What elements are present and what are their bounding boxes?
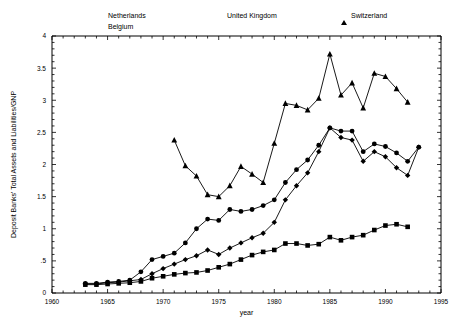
x-axis-tick-label: 1995 bbox=[434, 298, 449, 305]
square-marker-icon bbox=[194, 270, 199, 275]
diamond-marker-icon bbox=[216, 252, 221, 257]
x-axis-tick-label: 1985 bbox=[323, 298, 338, 305]
square-marker-icon bbox=[294, 241, 299, 246]
diamond-marker-icon bbox=[227, 245, 232, 250]
y-axis-tick-label: 2.5 bbox=[37, 129, 46, 136]
circle-marker-icon bbox=[416, 145, 421, 150]
circle-marker-icon bbox=[105, 280, 110, 285]
square-marker-icon bbox=[305, 243, 310, 248]
triangle-marker-icon bbox=[349, 80, 355, 86]
y-axis-tick-label: 3.5 bbox=[37, 65, 46, 72]
circle-marker-icon bbox=[116, 279, 121, 284]
series-united-kingdom bbox=[83, 125, 421, 285]
series-line bbox=[85, 128, 418, 284]
circle-marker-icon bbox=[83, 281, 88, 286]
y-axis-title: Deposit Banks' Total Assets and Liabilit… bbox=[10, 91, 18, 238]
triangle-marker-icon bbox=[249, 171, 255, 177]
y-axis-tick-label: 4 bbox=[42, 32, 46, 39]
series-line bbox=[85, 128, 418, 283]
square-marker-icon bbox=[216, 265, 221, 270]
x-axis-title: year bbox=[240, 309, 254, 317]
triangle-marker-icon bbox=[327, 51, 333, 57]
triangle-marker-icon bbox=[371, 70, 377, 76]
diamond-marker-icon bbox=[160, 266, 165, 271]
y-axis-tick-label: 0 bbox=[42, 289, 46, 296]
triangle-marker-icon bbox=[316, 95, 322, 101]
square-marker-icon bbox=[372, 228, 377, 233]
chart-svg: 0.511.522.533.54196019651970197519801985… bbox=[0, 0, 460, 327]
circle-marker-icon bbox=[327, 125, 332, 130]
diamond-marker-icon bbox=[172, 261, 177, 266]
circle-marker-icon bbox=[383, 144, 388, 149]
circle-marker-icon bbox=[250, 207, 255, 212]
plot-area: 0.511.522.533.54196019651970197519801985… bbox=[0, 0, 460, 327]
square-marker-icon bbox=[183, 271, 188, 276]
plot-frame bbox=[52, 36, 441, 293]
x-axis-tick-label: 1990 bbox=[378, 298, 393, 305]
circle-marker-icon bbox=[239, 209, 244, 214]
triangle-marker-icon bbox=[238, 163, 244, 169]
triangle-marker-icon bbox=[283, 100, 289, 106]
square-marker-icon bbox=[272, 248, 277, 253]
square-marker-icon bbox=[383, 223, 388, 228]
triangle-marker-icon bbox=[260, 179, 266, 185]
circle-marker-icon bbox=[394, 151, 399, 156]
circle-marker-icon bbox=[194, 226, 199, 231]
square-marker-icon bbox=[394, 222, 399, 227]
series-switzerland bbox=[171, 51, 410, 199]
circle-marker-icon bbox=[372, 142, 377, 147]
triangle-marker-icon bbox=[182, 163, 188, 169]
circle-marker-icon bbox=[339, 129, 344, 134]
circle-marker-icon bbox=[127, 278, 132, 283]
circle-marker-icon bbox=[161, 254, 166, 259]
circle-marker-icon bbox=[183, 240, 188, 245]
circle-marker-icon bbox=[272, 197, 277, 202]
circle-marker-icon bbox=[216, 218, 221, 223]
square-marker-icon bbox=[361, 233, 366, 238]
circle-marker-icon bbox=[261, 203, 266, 208]
square-marker-icon bbox=[350, 235, 355, 240]
x-axis-tick-label: 1980 bbox=[267, 298, 282, 305]
circle-marker-icon bbox=[227, 207, 232, 212]
x-axis-tick-label: 1965 bbox=[100, 298, 115, 305]
diamond-marker-icon bbox=[205, 247, 210, 252]
circle-marker-icon bbox=[94, 281, 99, 286]
circle-marker-icon bbox=[205, 217, 210, 222]
diamond-marker-icon bbox=[183, 257, 188, 262]
chart-root: Netherlands United Kingdom Switzerland B… bbox=[0, 0, 460, 327]
series-belgium bbox=[83, 125, 422, 287]
triangle-marker-icon bbox=[360, 105, 366, 111]
triangle-marker-icon bbox=[171, 137, 177, 143]
square-marker-icon bbox=[150, 276, 155, 281]
square-marker-icon bbox=[316, 242, 321, 247]
square-marker-icon bbox=[228, 262, 233, 267]
circle-marker-icon bbox=[316, 143, 321, 148]
circle-marker-icon bbox=[172, 251, 177, 256]
circle-marker-icon bbox=[139, 269, 144, 274]
series-line bbox=[85, 224, 407, 284]
y-axis-tick-label: 2 bbox=[42, 161, 46, 168]
circle-marker-icon bbox=[361, 149, 366, 154]
diamond-marker-icon bbox=[238, 240, 243, 245]
x-axis-tick-label: 1975 bbox=[211, 298, 226, 305]
diamond-marker-icon bbox=[349, 137, 354, 142]
circle-marker-icon bbox=[283, 180, 288, 185]
circle-marker-icon bbox=[350, 129, 355, 134]
circle-marker-icon bbox=[294, 167, 299, 172]
diamond-marker-icon bbox=[316, 149, 321, 154]
triangle-marker-icon bbox=[271, 140, 277, 146]
square-marker-icon bbox=[239, 257, 244, 262]
diamond-marker-icon bbox=[194, 253, 199, 258]
circle-marker-icon bbox=[405, 159, 410, 164]
y-axis-tick-label: 1 bbox=[42, 225, 46, 232]
y-axis-tick-label: 3 bbox=[42, 97, 46, 104]
triangle-marker-icon bbox=[227, 183, 233, 189]
square-marker-icon bbox=[405, 225, 410, 230]
square-marker-icon bbox=[261, 250, 266, 255]
square-marker-icon bbox=[283, 241, 288, 246]
square-marker-icon bbox=[205, 268, 210, 273]
diamond-marker-icon bbox=[149, 271, 154, 276]
diamond-marker-icon bbox=[405, 173, 410, 178]
x-axis-tick-label: 1970 bbox=[156, 298, 171, 305]
square-marker-icon bbox=[328, 235, 333, 240]
